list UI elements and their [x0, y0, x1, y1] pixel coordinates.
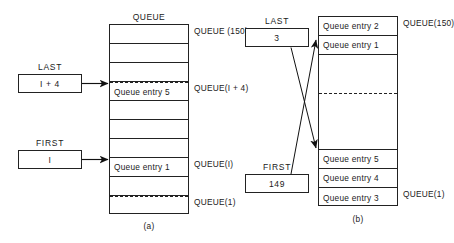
panel-a-side-label-queue-1: QUEUE(1) [194, 197, 236, 207]
panel-b-cell-6 [319, 131, 397, 150]
panel-a-side-label-queue-i-plus-4: QUEUE(I + 4) [194, 83, 248, 93]
panel-b-queue-column: Queue entry 2 Queue entry 1 Queue entry … [318, 16, 398, 206]
panel-b-cell-4 [319, 93, 397, 112]
panel-b-side-label-queue-150: QUEUE(150) [403, 18, 454, 28]
panel-a-side-label-queue-i: QUEUE(I) [194, 159, 233, 169]
panel-a-cell-1 [110, 44, 188, 63]
panel-b-first-pointer-label: FIRST [245, 162, 309, 172]
panel-a-cell-5 [110, 120, 188, 139]
panel-a-cell-0 [110, 25, 188, 44]
panel-b-cell-8: Queue entry 4 [319, 169, 397, 188]
panel-a-last-pointer-box: I + 4 [18, 74, 82, 93]
panel-a-first-pointer-value: I [49, 155, 52, 165]
panel-a-cell-3: Queue entry 5 [110, 82, 188, 101]
panel-b-last-arrow [291, 48, 316, 149]
panel-b-last-pointer-value: 3 [274, 33, 279, 43]
panel-a-side-label-queue-150: QUEUE (150) [194, 26, 248, 36]
panel-a-first-pointer-label: FIRST [18, 138, 82, 148]
panel-b-cell-9: Queue entry 3 [319, 188, 397, 207]
panel-b-cell-3 [319, 74, 397, 93]
panel-b-caption: (b) [344, 214, 372, 224]
panel-b-first-arrow [291, 40, 316, 174]
panel-a-cell-9 [110, 196, 188, 215]
panel-b-cell-2 [319, 55, 397, 74]
panel-a-column-title: QUEUE [121, 12, 177, 22]
panel-b-first-pointer-value: 149 [269, 179, 285, 189]
panel-a-cell-3-text: Queue entry 5 [114, 87, 170, 97]
panel-b-cell-1-text: Queue entry 1 [323, 40, 379, 50]
panel-a-cell-7: Queue entry 1 [110, 158, 188, 177]
panel-a-cell-7-text: Queue entry 1 [114, 162, 170, 172]
panel-b-cell-9-text: Queue entry 3 [323, 193, 379, 203]
panel-b-cell-7-text: Queue entry 5 [323, 154, 379, 164]
panel-a-cell-4 [110, 101, 188, 120]
panel-a-cell-2 [110, 63, 188, 82]
panel-a-last-pointer-value: I + 4 [40, 79, 60, 89]
panel-b-cell-7: Queue entry 5 [319, 150, 397, 169]
panel-b-cell-1: Queue entry 1 [319, 36, 397, 55]
panel-b-last-pointer-label: LAST [245, 16, 309, 26]
panel-b-cell-5 [319, 112, 397, 131]
panel-a-last-pointer-label: LAST [18, 62, 82, 72]
panel-a-caption: (a) [135, 221, 163, 231]
panel-b-cell-0-text: Queue entry 2 [323, 21, 379, 31]
panel-a-first-pointer-box: I [18, 150, 82, 169]
panel-a-cell-8 [110, 177, 188, 196]
panel-b-side-label-queue-1: QUEUE(1) [403, 189, 445, 199]
panel-b-cell-8-text: Queue entry 4 [323, 173, 379, 183]
panel-a-cell-6 [110, 139, 188, 158]
panel-b-last-pointer-box: 3 [245, 28, 309, 47]
panel-b-first-pointer-box: 149 [245, 174, 309, 193]
panel-a-queue-column: Queue entry 5 Queue entry 1 [109, 24, 189, 214]
panel-b-cell-0: Queue entry 2 [319, 17, 397, 36]
